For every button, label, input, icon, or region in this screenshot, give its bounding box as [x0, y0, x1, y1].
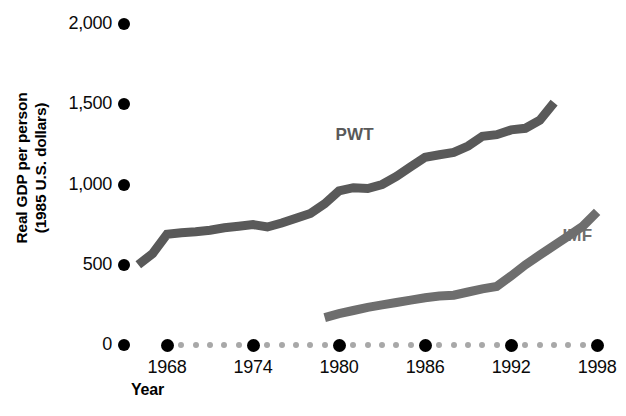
plot-area [0, 0, 626, 416]
x-tick-dot-minor [365, 342, 371, 348]
x-axis-title: Year [131, 381, 164, 399]
series-label-imf: IMF [562, 226, 592, 246]
x-tick-label: 1968 [148, 357, 187, 378]
x-tick-label: 1974 [234, 357, 273, 378]
x-tick-dot-minor [279, 342, 285, 348]
x-tick-dot-minor [537, 342, 543, 348]
x-tick-dot-major [333, 339, 346, 352]
x-tick-dot-minor [293, 342, 299, 348]
x-tick-dot-minor [451, 342, 457, 348]
x-tick-dot-minor [580, 342, 586, 348]
x-tick-label: 1986 [406, 357, 445, 378]
series-label-pwt: PWT [335, 125, 373, 145]
x-tick-dot-minor [322, 342, 328, 348]
x-tick-dot-minor [193, 342, 199, 348]
x-tick-dot-major [247, 339, 260, 352]
x-tick-dot-major [161, 339, 174, 352]
x-tick-dot-major [419, 339, 432, 352]
chart-figure: Real GDP per person (1985 U.S. dollars) … [0, 0, 626, 416]
x-tick-dot-minor [236, 342, 242, 348]
x-tick-label: 1998 [578, 357, 617, 378]
x-tick-dot-minor [379, 342, 385, 348]
x-tick-dot-minor [494, 342, 500, 348]
x-tick-dot-major [505, 339, 518, 352]
series-line-imf [325, 212, 597, 318]
x-tick-dot-major [591, 339, 604, 352]
x-tick-label: 1980 [320, 357, 359, 378]
x-tick-label: 1992 [492, 357, 531, 378]
x-tick-dot-minor [207, 342, 213, 348]
x-tick-dot-minor [408, 342, 414, 348]
